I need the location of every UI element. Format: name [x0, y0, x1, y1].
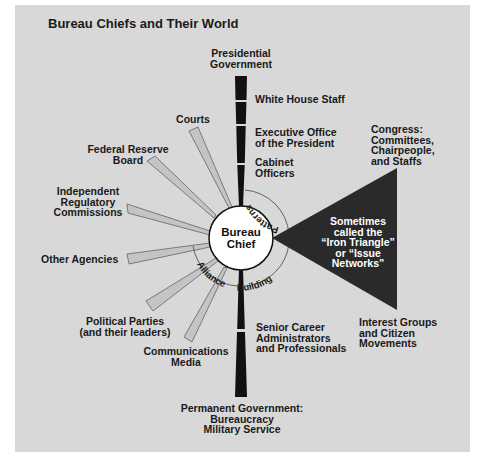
federal-reserve-wedge	[147, 156, 216, 218]
courts-label: Courts	[168, 114, 218, 125]
permanent-government-heading: Permanent Government: Bureaucracy Milita…	[176, 403, 308, 435]
interest-groups-label: Interest Groups and Citizen Movements	[359, 317, 437, 349]
presidential-bar	[235, 76, 247, 207]
regulatory-commissions-wedge	[127, 204, 210, 235]
regulatory-commissions-label: Independent Regulatory Commissions	[52, 186, 124, 218]
communications-media-label: Communications Media	[140, 346, 232, 367]
presidential-government-heading: Presidential Government	[200, 48, 282, 69]
cabinet-officers-label: Cabinet Officers	[255, 157, 295, 178]
political-parties-label: Political Parties (and their leaders)	[70, 316, 180, 337]
federal-reserve-label: Federal Reserve Board	[84, 144, 172, 165]
other-agencies-label: Other Agencies	[41, 254, 118, 265]
executive-office-label: Executive Office of the President	[255, 127, 337, 148]
bureau-chief-label: Bureau Chief	[211, 226, 271, 250]
iron-triangle-text: Sometimes called the “Iron Triangle” or …	[310, 216, 406, 269]
congress-label: Congress: Committees, Chairpeople, and S…	[371, 124, 435, 166]
white-house-staff-label: White House Staff	[255, 94, 345, 105]
senior-career-label: Senior Career Administrators and Profess…	[256, 322, 346, 354]
